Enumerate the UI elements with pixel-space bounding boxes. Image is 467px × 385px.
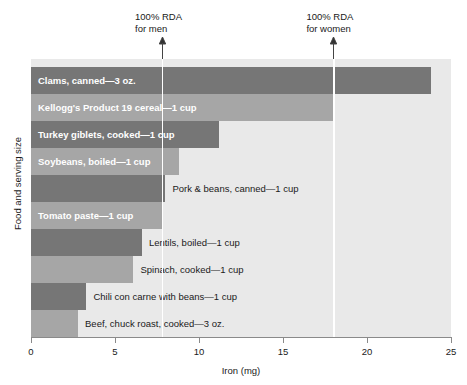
bar-row: Spinach, cooked—1 cup: [31, 256, 451, 283]
x-tick-label: 20: [352, 346, 382, 357]
bar-row: Beef, chuck roast, cooked—3 oz.: [31, 310, 451, 337]
rda-women-label: 100% RDAfor women: [306, 11, 353, 34]
rda-women-label-line2: for women: [306, 23, 353, 35]
rda-men-label-line2: for men: [135, 23, 182, 35]
rda-women-label-line1: 100% RDA: [306, 11, 353, 23]
bar-row: Pork & beans, canned—1 cup: [31, 175, 451, 202]
bar-row: Turkey giblets, cooked—1 cup: [31, 121, 451, 148]
bar: [31, 256, 133, 283]
bar-label: Soybeans, boiled—1 cup: [38, 148, 150, 175]
x-tick: [115, 337, 116, 343]
rda-men-arrow-icon: [158, 36, 167, 60]
rda-women-line: [333, 59, 334, 337]
bar-label: Turkey giblets, cooked—1 cup: [38, 121, 175, 148]
x-tick-label: 10: [184, 346, 214, 357]
bar-label: Kellogg's Product 19 cereal—1 cup: [38, 94, 197, 121]
bar-row: Kellogg's Product 19 cereal—1 cup: [31, 94, 451, 121]
x-tick: [451, 337, 452, 343]
bar-label: Pork & beans, canned—1 cup: [172, 175, 298, 202]
bar-row: Chili con carne with beans—1 cup: [31, 283, 451, 310]
bar-row: Clams, canned—3 oz.: [31, 67, 451, 94]
x-axis-line: [31, 337, 451, 338]
x-tick-label: 5: [100, 346, 130, 357]
rda-men-label: 100% RDAfor men: [135, 11, 182, 34]
bar-row: Lentils, boiled—1 cup: [31, 229, 451, 256]
bar: [31, 175, 165, 202]
bar-label: Clams, canned—3 oz.: [38, 67, 136, 94]
x-tick: [283, 337, 284, 343]
bar-label: Spinach, cooked—1 cup: [140, 256, 243, 283]
bar-label: Chili con carne with beans—1 cup: [93, 283, 237, 310]
rda-men-line: [162, 59, 163, 337]
y-axis-title: Food and serving size: [12, 119, 23, 249]
bar: [31, 229, 142, 256]
bar-label: Beef, chuck roast, cooked—3 oz.: [85, 310, 224, 337]
x-tick-label: 0: [16, 346, 46, 357]
rda-women-arrow-icon: [329, 36, 338, 60]
bar-row: Tomato paste—1 cup: [31, 202, 451, 229]
x-tick: [199, 337, 200, 343]
x-tick: [31, 337, 32, 343]
bars-container: Clams, canned—3 oz.Kellogg's Product 19 …: [31, 67, 451, 337]
x-tick-label: 15: [268, 346, 298, 357]
bar-row: Soybeans, boiled—1 cup: [31, 148, 451, 175]
x-tick-label: 25: [436, 346, 466, 357]
bar: [31, 283, 86, 310]
x-axis-title: Iron (mg): [31, 365, 451, 376]
plot-area: Clams, canned—3 oz.Kellogg's Product 19 …: [31, 59, 451, 337]
iron-content-bar-chart: 100% RDAfor men100% RDAfor women Food an…: [0, 0, 467, 385]
x-tick: [367, 337, 368, 343]
rda-men-label-line1: 100% RDA: [135, 11, 182, 23]
bar: [31, 310, 78, 337]
bar-label: Tomato paste—1 cup: [38, 202, 133, 229]
